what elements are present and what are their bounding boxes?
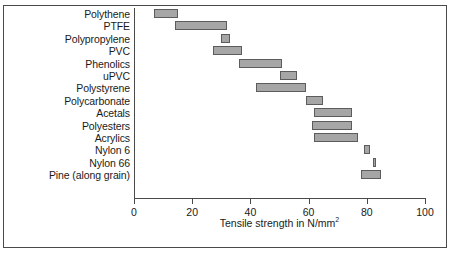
category-label: uPVC <box>103 70 130 82</box>
bar-row <box>134 120 425 132</box>
bar-series <box>134 8 425 184</box>
range-bar <box>361 170 381 179</box>
category-label: Acetals <box>96 107 130 119</box>
range-bar <box>221 34 230 43</box>
range-bar <box>213 46 242 55</box>
category-label: Nylon 6 <box>95 144 130 156</box>
range-bar <box>314 133 358 142</box>
category-label: Polycarbonate <box>64 95 130 107</box>
category-label: PVC <box>109 45 130 57</box>
range-bar <box>280 71 297 80</box>
bar-row <box>134 144 425 156</box>
range-bar <box>239 59 283 68</box>
bar-row <box>134 33 425 45</box>
category-label: Acrylics <box>95 132 130 144</box>
tensile-strength-chart-figure: Polythene PTFE Polypropylene PVC Phenoli… <box>0 0 451 253</box>
bar-row <box>134 58 425 70</box>
bar-row <box>134 20 425 32</box>
category-label: Polyesters <box>82 120 130 132</box>
range-bar <box>306 96 323 105</box>
bar-row <box>134 132 425 144</box>
x-tick <box>192 199 193 204</box>
x-tick <box>250 199 251 204</box>
category-label: Nylon 66 <box>89 157 130 169</box>
category-label-column: Polythene PTFE Polypropylene PVC Phenoli… <box>8 8 130 184</box>
range-bar <box>373 158 376 167</box>
x-tick <box>134 199 135 204</box>
x-axis-label-superscript: 2 <box>335 216 339 223</box>
x-axis-label-text: Tensile strength in N/mm <box>220 217 336 229</box>
bar-row <box>134 107 425 119</box>
range-bar <box>312 121 353 130</box>
x-tick <box>367 199 368 204</box>
x-axis-label: Tensile strength in N/mm2 <box>134 216 425 229</box>
category-label: Phenolics <box>85 58 130 70</box>
bar-row <box>134 82 425 94</box>
range-bar <box>175 21 227 30</box>
range-bar <box>256 83 305 92</box>
bar-row <box>134 95 425 107</box>
x-tick <box>425 199 426 204</box>
bar-row <box>134 8 425 20</box>
bar-row <box>134 45 425 57</box>
category-label: Polythene <box>84 8 130 20</box>
category-label: PTFE <box>104 20 130 32</box>
range-bar <box>154 9 177 18</box>
bar-row <box>134 70 425 82</box>
category-label: Polypropylene <box>65 33 130 45</box>
category-label: Polystyrene <box>76 82 130 94</box>
category-label: Pine (along grain) <box>49 169 130 181</box>
x-tick <box>309 199 310 204</box>
plot-area: 020406080100 <box>134 8 425 199</box>
x-axis-line <box>134 198 426 199</box>
bar-row <box>134 157 425 169</box>
range-bar <box>364 145 370 154</box>
range-bar <box>314 108 352 117</box>
bar-row <box>134 169 425 181</box>
